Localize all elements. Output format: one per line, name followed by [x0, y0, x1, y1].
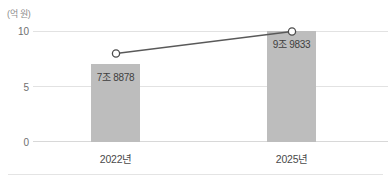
gridline-0-baseline	[33, 141, 388, 142]
x-axis-label-2025: 2025년	[276, 151, 308, 166]
y-axis-tick-5: 5	[3, 81, 29, 92]
y-axis-tick-column: 10 5 0	[0, 31, 29, 142]
data-label-2025: 9조 9833	[261, 36, 322, 51]
bottom-divider	[8, 174, 383, 175]
y-axis-unit-label: (억 원)	[7, 7, 31, 20]
bar-line-combo-chart: (억 원) 10 5 0 7조 8878 9조 9833 2022년 2025년	[0, 0, 391, 180]
gridline-5	[33, 86, 388, 87]
y-axis-tick-10: 10	[3, 26, 29, 37]
plot-area: 7조 8878 9조 9833	[33, 31, 388, 142]
x-axis-label-2022: 2022년	[100, 151, 132, 166]
gridline-10	[33, 31, 388, 32]
data-label-2022: 7조 8878	[85, 69, 146, 84]
y-axis-tick-0: 0	[3, 137, 29, 148]
